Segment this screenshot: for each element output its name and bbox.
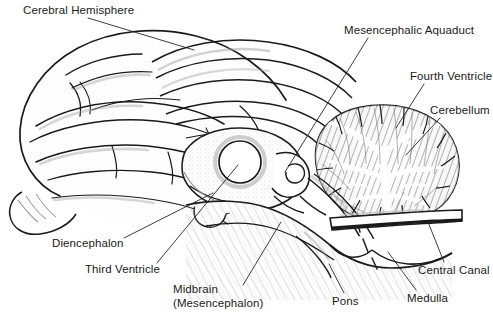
label-pons: Pons (332, 295, 359, 308)
label-mesencephalic-aquaduct: Mesencephalic Aquaduct (344, 24, 474, 37)
label-cerebral-hemisphere: Cerebral Hemisphere (23, 4, 134, 17)
label-central-canal: Central Canal (418, 264, 490, 277)
label-medulla: Medulla (407, 292, 448, 305)
label-midbrain-mesencephalon: Midbrain (Mesencephalon) (173, 283, 263, 310)
label-third-ventricle: Third Ventricle (85, 263, 160, 276)
label-fourth-ventricle: Fourth Ventricle (410, 70, 492, 83)
label-cerebellum: Cerebellum (430, 104, 490, 117)
third-ventricle-ring (215, 137, 265, 187)
label-diencephalon: Diencephalon (52, 237, 124, 250)
brain-sagittal-diagram: Cerebral Hemisphere Mesencephalic Aquadu… (0, 0, 493, 316)
